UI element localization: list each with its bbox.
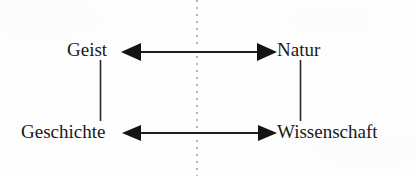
arrow-head-left-bottom (122, 125, 141, 141)
node-label-natur: Natur (277, 40, 320, 59)
edge-geist-natur (121, 43, 277, 61)
arrow-head-right-bottom (258, 125, 277, 141)
node-label-wissenschaft: Wissenschaft (277, 122, 378, 141)
arrow-head-right-top (257, 43, 277, 61)
edge-geschichte-wissenschaft (122, 125, 277, 141)
node-label-geist: Geist (67, 40, 107, 59)
diagram-canvas: Geist Natur Geschichte Wissenschaft (0, 0, 416, 176)
arrow-head-left-top (121, 43, 141, 61)
edges-layer (0, 0, 416, 176)
node-label-geschichte: Geschichte (21, 122, 105, 141)
